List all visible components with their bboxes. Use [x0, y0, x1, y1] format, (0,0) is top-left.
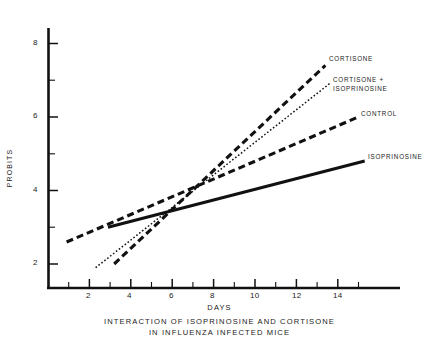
figure-caption-line-2: IN INFLUENZA INFECTED MICE	[0, 327, 439, 338]
x-tick-label-2: 2	[86, 291, 91, 300]
y-tick-label-4: 4	[33, 185, 38, 194]
series-line-isoprinosine	[108, 161, 365, 227]
figure-caption: INTERACTION OF ISOPRINOSINE AND CORTISON…	[0, 316, 439, 338]
series-line-cortisone	[114, 65, 325, 264]
plot-canvas	[0, 0, 439, 348]
x-tick-label-8: 8	[210, 291, 215, 300]
y-tick-label-8: 8	[33, 38, 38, 47]
x-tick-label-6: 6	[169, 291, 174, 300]
series-label-isoprinosine: ISOPRINOSINE	[368, 152, 423, 161]
y-tick-label-2: 2	[33, 258, 38, 267]
series-line-cortisone-plus-isoprinosine	[96, 84, 330, 268]
figure-caption-line-1: INTERACTION OF ISOPRINOSINE AND CORTISON…	[0, 316, 439, 327]
x-axis-major-ticks	[89, 279, 337, 287]
y-axis-minor-ticks	[49, 80, 55, 227]
series-label-cortisone-plus-isoprinosine-line1: CORTISONE +	[333, 75, 388, 84]
y-axis-title: PROBITS	[6, 138, 13, 198]
chart-figure: 8 6 4 2 2 4 6 8 10 12 14 CORTISONE CORTI…	[0, 0, 439, 348]
x-tick-label-10: 10	[250, 291, 260, 300]
series-label-cortisone-plus-isoprinosine-line2: ISOPRINOSINE	[333, 84, 388, 93]
x-tick-label-12: 12	[292, 291, 302, 300]
series-line-control	[67, 117, 359, 242]
series-label-cortisone-plus-isoprinosine: CORTISONE + ISOPRINOSINE	[333, 75, 388, 93]
y-tick-label-6: 6	[33, 111, 38, 120]
x-tick-label-14: 14	[333, 291, 343, 300]
x-axis-title: DAYS	[0, 303, 439, 312]
series-label-control: CONTROL	[361, 109, 397, 118]
x-tick-label-4: 4	[127, 291, 132, 300]
series-label-cortisone: CORTISONE	[329, 54, 373, 63]
